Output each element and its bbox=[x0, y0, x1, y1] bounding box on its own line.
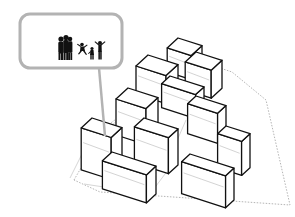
callout bbox=[20, 14, 122, 136]
massing-diagram bbox=[0, 0, 295, 217]
diagram-canvas bbox=[0, 0, 295, 217]
